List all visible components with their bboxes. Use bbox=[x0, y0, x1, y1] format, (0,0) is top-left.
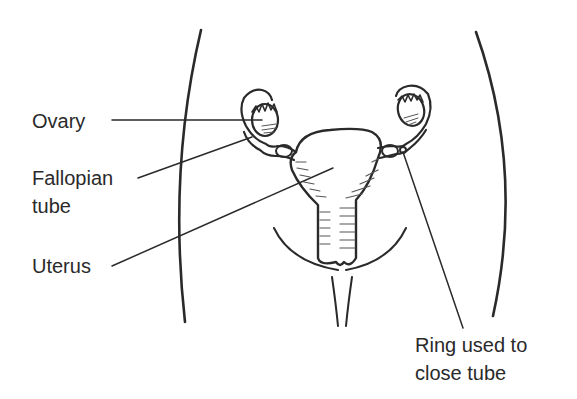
leader-lines bbox=[112, 120, 463, 328]
label-fallopian-line1: Fallopian bbox=[32, 164, 113, 192]
label-ring: Ring used to close tube bbox=[415, 331, 527, 387]
vagina-right bbox=[346, 277, 352, 326]
label-fallopian-line2: tube bbox=[32, 192, 113, 220]
vagina-left bbox=[332, 277, 338, 326]
label-ovary-text: Ovary bbox=[32, 107, 85, 135]
label-ring-line2: close tube bbox=[415, 359, 527, 387]
leader-fallopian bbox=[138, 137, 252, 178]
leader-ring bbox=[403, 152, 463, 328]
uterus bbox=[291, 129, 381, 265]
ovary-left-shading bbox=[262, 124, 276, 133]
body-outline-right bbox=[476, 32, 506, 316]
body-outline-left bbox=[179, 30, 201, 322]
label-uterus-text: Uterus bbox=[32, 252, 91, 280]
uterus-shading bbox=[296, 158, 380, 248]
label-ovary: Ovary bbox=[32, 107, 85, 135]
leader-uterus bbox=[112, 168, 333, 266]
ovary-right bbox=[394, 91, 427, 129]
label-uterus: Uterus bbox=[32, 252, 91, 280]
anatomy-diagram: Ovary Fallopian tube Uterus Ring used to… bbox=[0, 0, 577, 399]
label-fallopian-tube: Fallopian tube bbox=[32, 164, 113, 220]
label-ring-line1: Ring used to bbox=[415, 331, 527, 359]
